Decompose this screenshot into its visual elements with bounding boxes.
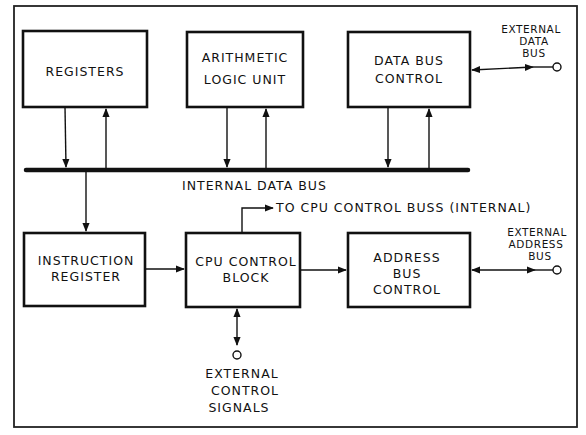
external-data-bus-label-line2: DATA bbox=[519, 35, 549, 47]
alu-block: ARITHMETIC LOGIC UNIT bbox=[187, 32, 303, 107]
external-address-bus-terminal bbox=[553, 266, 561, 274]
to-cpu-control-bus-arrow bbox=[242, 208, 273, 233]
cpu-control-block: CPU CONTROL BLOCK bbox=[186, 233, 300, 307]
external-address-bus-label-line2: ADDRESS bbox=[509, 238, 564, 250]
address-bus-control-label-line3: CONTROL bbox=[373, 282, 441, 297]
data-bus-control-label-line1: DATA BUS bbox=[374, 53, 444, 68]
external-control-signals-label-line2: CONTROL bbox=[211, 383, 279, 398]
instruction-register-label-line1: INSTRUCTION bbox=[38, 253, 135, 268]
external-address-bus-label-line3: BUS bbox=[528, 250, 551, 262]
instruction-register-block: INSTRUCTION REGISTER bbox=[24, 233, 145, 306]
address-bus-control-label-line1: ADDRESS bbox=[373, 250, 440, 265]
alu-label-line2: LOGIC UNIT bbox=[204, 72, 286, 87]
internal-data-bus-label: INTERNAL DATA BUS bbox=[182, 178, 327, 193]
external-data-bus-label-line3: BUS bbox=[522, 47, 545, 59]
cpu-control-block-label-line2: BLOCK bbox=[223, 270, 270, 285]
external-address-bus-label-line1: EXTERNAL bbox=[507, 226, 567, 238]
data-bus-control-label-line2: CONTROL bbox=[375, 71, 443, 86]
external-data-bus-terminal bbox=[553, 63, 561, 71]
to-cpu-control-bus-label: TO CPU CONTROL BUSS (INTERNAL) bbox=[275, 200, 531, 215]
alu-label-line1: ARITHMETIC bbox=[202, 50, 289, 65]
registers-label: REGISTERS bbox=[45, 64, 124, 79]
external-data-bus-label-line1: EXTERNAL bbox=[501, 23, 561, 35]
data-bus-control-block: DATA BUS CONTROL bbox=[348, 32, 470, 107]
external-control-signals-label-line3: SIGNALS bbox=[208, 400, 269, 415]
external-data-bus-arrow bbox=[472, 67, 533, 70]
cpu-block-diagram: REGISTERS ARITHMETIC LOGIC UNIT DATA BUS… bbox=[0, 0, 586, 435]
external-control-signals-label-line1: EXTERNAL bbox=[205, 366, 278, 381]
instruction-register-label-line2: REGISTER bbox=[51, 269, 121, 284]
registers-block: REGISTERS bbox=[23, 31, 147, 107]
external-control-signals-terminal bbox=[233, 351, 241, 359]
registers-to-bus-arrow bbox=[65, 107, 66, 167]
cpu-control-block-label-line1: CPU CONTROL bbox=[195, 254, 296, 269]
address-bus-control-label-line2: BUS bbox=[393, 266, 422, 281]
address-bus-control-block: ADDRESS BUS CONTROL bbox=[348, 233, 470, 307]
